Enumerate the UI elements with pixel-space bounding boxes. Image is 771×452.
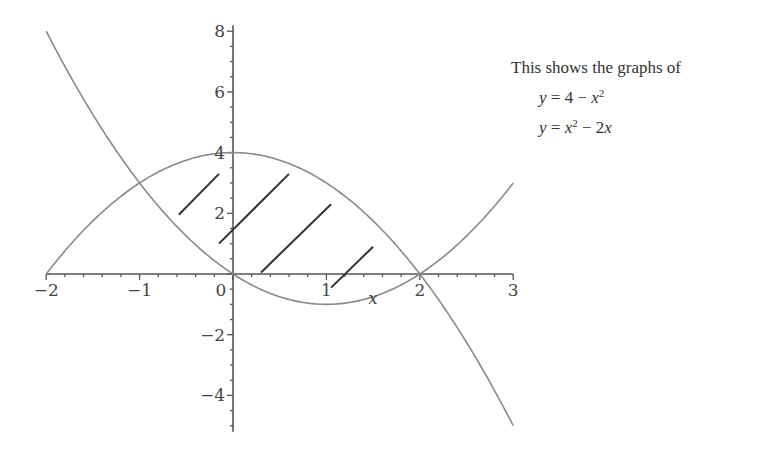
y-tick-label: 4 [214, 143, 225, 163]
x-tick-label: −1 [127, 280, 152, 300]
x-tick-label: 1 [321, 280, 332, 300]
eq1-lhs: y [539, 88, 547, 107]
eq1-rhs-exp: 2 [599, 87, 605, 99]
hatch-line [219, 174, 289, 244]
caption-intro: This shows the graphs of [511, 58, 681, 78]
hatch-line [179, 174, 219, 215]
hatch-line [331, 247, 373, 288]
curves [46, 31, 513, 426]
curve-1 [46, 153, 513, 426]
equation-1: y = 4 − x2 [511, 88, 681, 108]
caption: This shows the graphs of y = 4 − x2 y = … [511, 58, 681, 138]
y-tick-label: 2 [214, 203, 225, 223]
eq1-rhs-a: 4 − [565, 88, 592, 107]
axes [46, 25, 513, 432]
equation-2: y = x2 − 2x [511, 118, 681, 138]
x-tick-label: 0 [216, 280, 227, 300]
y-tick-label: 6 [214, 82, 225, 102]
eq2-rhs-b: − 2 [578, 118, 605, 137]
tick-labels: −2−101238642−2−4x [34, 21, 519, 405]
y-tick-label: −2 [200, 325, 225, 345]
eq2-lhs: y [539, 118, 547, 137]
eq2-rhs-var2: x [604, 118, 612, 137]
x-tick-label: 3 [508, 280, 519, 300]
y-tick-label: −4 [200, 385, 225, 405]
x-tick-label: −2 [34, 280, 59, 300]
hatch-line [261, 204, 331, 272]
y-tick-label: 8 [214, 21, 225, 41]
x-tick-label: 2 [414, 280, 425, 300]
eq1-rhs-var: x [591, 88, 599, 107]
x-axis-label: x [368, 288, 378, 308]
hatch-region [179, 174, 373, 288]
curve-2 [46, 31, 513, 304]
